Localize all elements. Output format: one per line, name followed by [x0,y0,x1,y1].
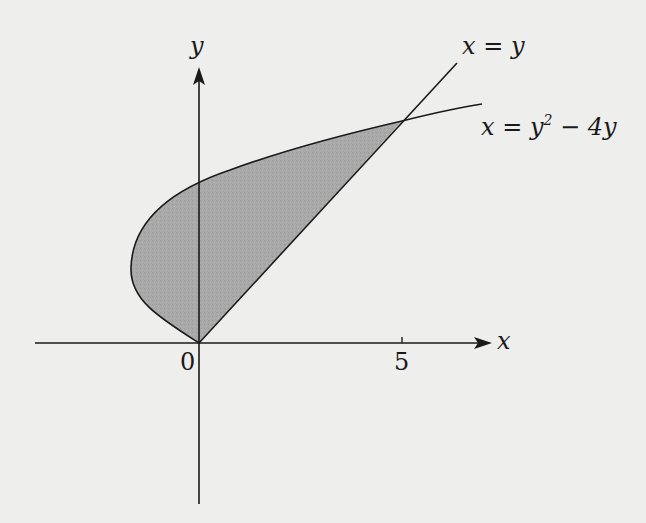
y-axis-label: y [190,34,204,58]
origin-label: 0 [180,350,195,374]
parabola-label: x = y2 − 4y [481,113,617,139]
parabola-label-main: x = y [481,113,543,141]
x-axis-label: x [497,329,511,353]
region-diagram: y x 0 5 x = y x = y2 − 4y [0,0,646,523]
x-tick-label-5: 5 [394,350,409,374]
parabola-label-tail: − 4y [552,113,616,141]
shaded-region [131,121,402,343]
diagram-canvas [0,0,646,523]
line-label: x = y [462,34,524,58]
